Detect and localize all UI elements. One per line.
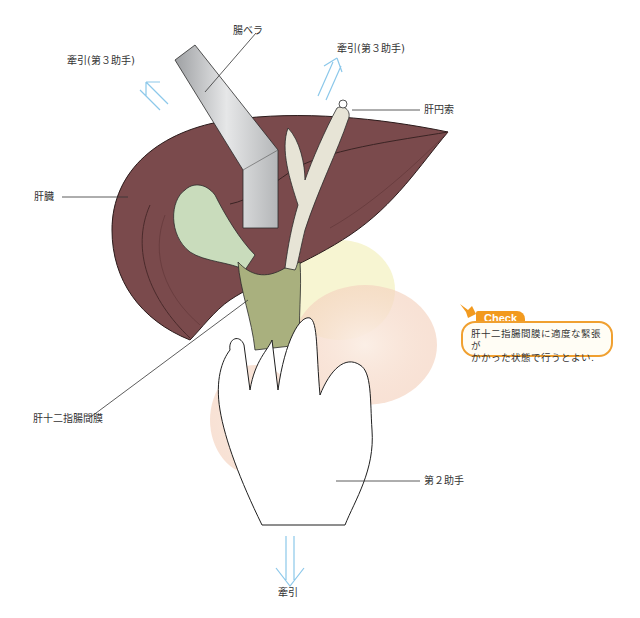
traction-arrow-bottom-icon <box>276 536 304 586</box>
traction-3rd-assistant-left-label: 牽引(第３助手) <box>67 56 135 66</box>
liver-label: 肝臓 <box>34 192 54 202</box>
surgical-illustration: 牽引(第３助手) 腸ベラ 牽引(第３助手) 肝円索 肝臓 肝十二指腸間膜 第２助… <box>0 0 640 618</box>
traction-3rd-assistant-right-label: 牽引(第３助手) <box>337 44 405 54</box>
second-assistant-label: 第２助手 <box>424 476 464 486</box>
anatomy-drawing <box>0 0 640 618</box>
check-text-line2: かかった状態で行うとよい. <box>471 352 603 364</box>
round-ligament-label: 肝円索 <box>424 105 454 115</box>
intestinal-spatula-label: 腸ベラ <box>233 26 263 36</box>
check-text-line1: 肝十二指腸間膜に適度な緊張が <box>471 328 603 352</box>
check-callout: 肝十二指腸間膜に適度な緊張が かかった状態で行うとよい. <box>461 321 613 357</box>
traction-bottom-label: 牽引 <box>278 588 298 598</box>
hepatoduodenal-ligament-label: 肝十二指腸間膜 <box>33 414 103 424</box>
traction-arrow-left-icon <box>140 82 168 110</box>
traction-arrow-right-icon <box>318 58 342 100</box>
